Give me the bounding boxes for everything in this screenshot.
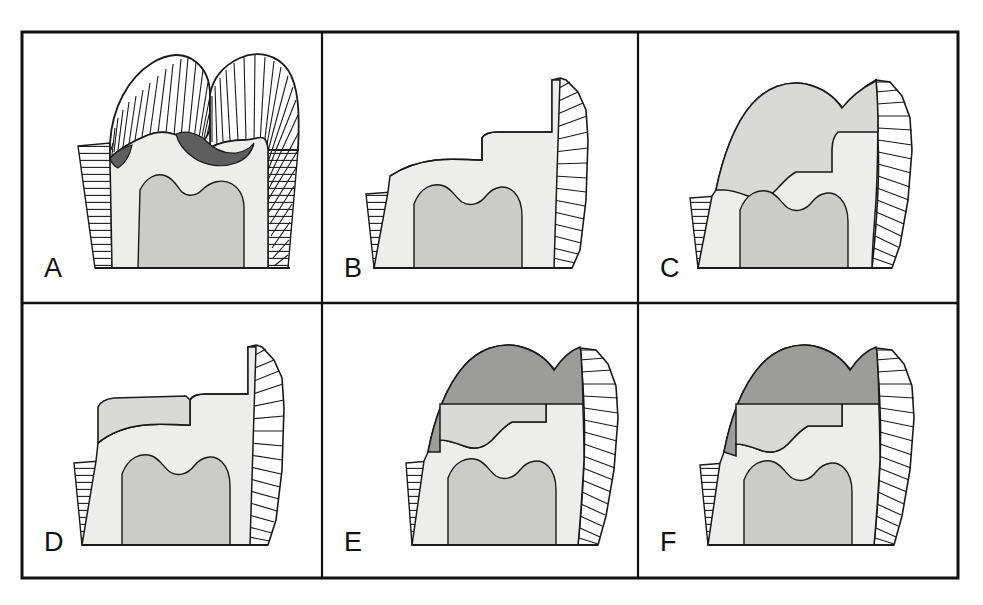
panel-label-f: F bbox=[660, 527, 677, 557]
panel-label-b: B bbox=[344, 253, 362, 283]
panel-label-c: C bbox=[660, 253, 680, 283]
panel-label-d: D bbox=[44, 527, 64, 557]
tooth-series-diagram: A bbox=[0, 0, 983, 605]
panel-label-a: A bbox=[44, 253, 62, 283]
panel-label-e: E bbox=[344, 527, 362, 557]
figure-root: A bbox=[0, 0, 983, 605]
